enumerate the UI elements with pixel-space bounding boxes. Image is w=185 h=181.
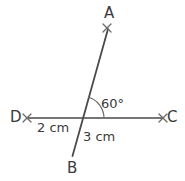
- point-label-d: D: [10, 110, 22, 125]
- measurement-label-3cm: 3 cm: [83, 130, 115, 143]
- geometry-diagram: A B C D 2 cm 3 cm 60°: [0, 0, 185, 181]
- measurement-label-2cm: 2 cm: [37, 121, 69, 134]
- geometry-canvas: [0, 0, 185, 181]
- point-label-b: B: [67, 161, 77, 176]
- angle-label-60deg: 60°: [101, 97, 124, 110]
- point-label-a: A: [104, 6, 114, 21]
- point-label-c: C: [167, 110, 177, 125]
